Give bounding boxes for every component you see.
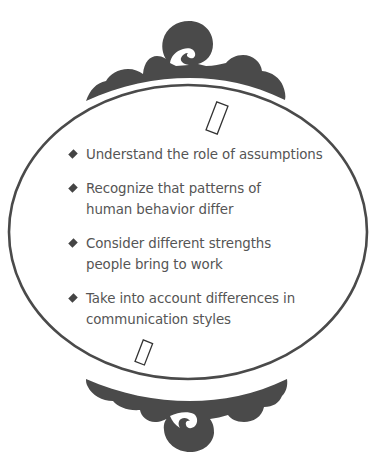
bullet-text: Understand the role of assumptions <box>86 144 336 165</box>
bullet-text: Consider different strengths <box>86 233 336 254</box>
diamond-bullet-icon <box>68 149 78 159</box>
diamond-bullet-icon <box>68 183 78 193</box>
bottom-marker-rectangle-icon <box>135 340 153 365</box>
bullet-list: Understand the role of assumptions Recog… <box>66 144 336 343</box>
bullet-text: Recognize that patterns of <box>86 178 336 199</box>
bullet-text: people bring to work <box>86 254 336 275</box>
bottom-ornament-icon <box>86 379 287 452</box>
diamond-bullet-icon <box>68 238 78 248</box>
bullet-text: human behavior differ <box>86 199 336 220</box>
diamond-bullet-icon <box>68 293 78 303</box>
bullet-item-assumptions: Understand the role of assumptions <box>66 144 336 165</box>
bullet-item-strengths: Consider different strengths people brin… <box>66 233 336 275</box>
top-marker-rectangle-icon <box>206 102 228 134</box>
bullet-text: Take into account differences in <box>86 288 336 309</box>
bullet-text: communication styles <box>86 309 336 330</box>
top-ornament-icon <box>86 21 285 101</box>
bullet-item-communication: Take into account differences in communi… <box>66 288 336 330</box>
bullet-item-patterns: Recognize that patterns of human behavio… <box>66 178 336 220</box>
